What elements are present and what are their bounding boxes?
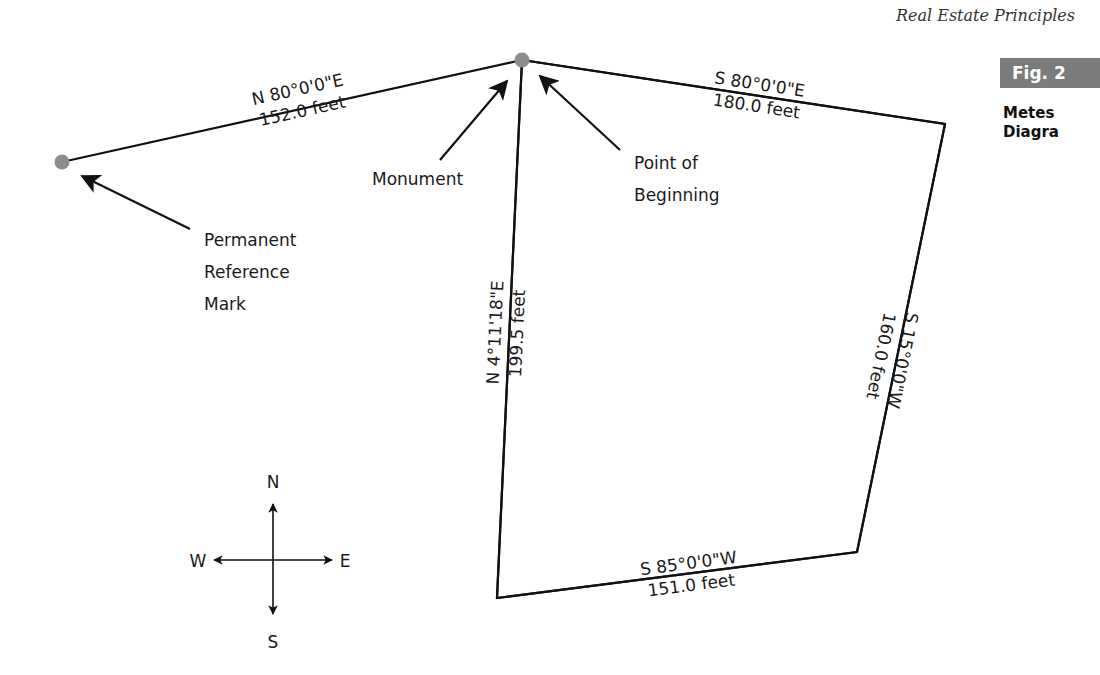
reference-mark-marker (55, 155, 70, 170)
point-of-beginning-callout-arrow (540, 76, 620, 150)
reference-mark-label-line-1: Permanent (204, 230, 297, 250)
reference-mark-callout-arrow (82, 176, 190, 229)
point-of-beginning-label-line-2: Beginning (634, 185, 719, 205)
west-line-distance: 199.5 feet (505, 289, 529, 378)
west-line-bearing: N 4°11'18"E (483, 280, 508, 385)
compass-north-label: N (267, 472, 280, 492)
compass-south-label: S (268, 632, 279, 652)
compass-east-label: E (340, 551, 351, 571)
reference-mark-label-line-3: Mark (204, 294, 246, 314)
reference-mark-label-line-2: Reference (204, 262, 290, 282)
compass-west-label: W (190, 551, 207, 571)
monument-label: Monument (372, 169, 463, 189)
monument-marker (515, 53, 530, 68)
monument-callout-arrow (440, 81, 507, 160)
point-of-beginning-label-line-1: Point of (634, 153, 699, 173)
compass-rose: N S E W (190, 472, 351, 652)
